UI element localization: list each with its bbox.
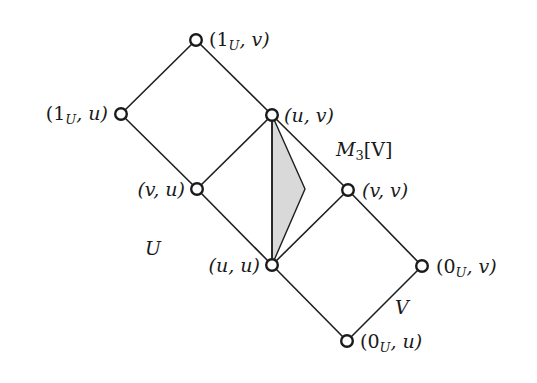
edge-1Uv-1Uu — [121, 40, 196, 114]
label-u-u: (u, u) — [209, 254, 260, 276]
shaded-region — [272, 115, 305, 265]
node-u-v — [266, 109, 278, 121]
node-u-u — [266, 259, 278, 271]
label-u-sublattice: U — [145, 237, 162, 259]
lattice-diagram: (1U, v) (1U, u) (u, v) (v, u) (v, v) (u,… — [0, 0, 537, 383]
label-v-u: (v, u) — [137, 178, 185, 200]
label-0U-v: (0U, v) — [436, 255, 497, 280]
node-0U-v — [416, 260, 428, 272]
node-v-v — [342, 184, 354, 196]
node-0U-u — [341, 335, 353, 347]
node-1U-u — [115, 108, 127, 120]
node-1U-v — [190, 34, 202, 46]
label-1U-v: (1U, v) — [209, 28, 270, 53]
label-v-v: (v, v) — [362, 179, 408, 201]
label-1U-u: (1U, u) — [46, 102, 108, 127]
label-0U-u: (0U, u) — [360, 330, 422, 355]
node-v-u — [191, 183, 203, 195]
edge-uv-vu — [197, 115, 272, 189]
edge-vv-0Uv — [348, 190, 422, 266]
label-u-v: (u, v) — [284, 104, 334, 126]
edge-uu-0Uu — [272, 265, 347, 341]
label-v-sublattice: V — [395, 296, 411, 318]
label-m3v: M3[V] — [335, 138, 392, 163]
